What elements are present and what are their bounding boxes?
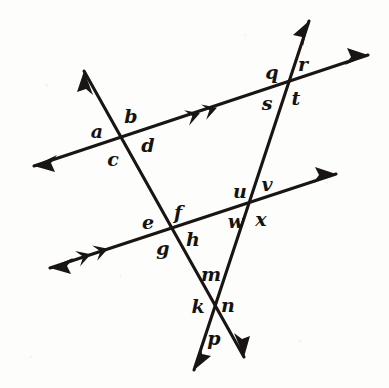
angle-label-e: e — [142, 213, 154, 232]
angle-label-c: c — [107, 150, 119, 169]
angle-label-g: g — [156, 239, 169, 258]
arrowhead-upper-parallel-right — [345, 48, 368, 65]
arrowheads-group — [34, 21, 368, 370]
angle-label-d: d — [141, 136, 154, 155]
angle-label-a: a — [91, 122, 103, 141]
angle-label-n: n — [221, 296, 235, 315]
angle-label-s: s — [262, 94, 273, 113]
geometry-diagram: a b c d q r s t e f g h u v w x m k n p — [0, 0, 389, 388]
lower-parallel-line — [50, 174, 336, 268]
angle-label-r: r — [298, 55, 308, 74]
angle-label-v: v — [261, 175, 272, 194]
arrowhead-lower-parallel-right — [313, 167, 336, 183]
angle-label-p: p — [207, 329, 220, 348]
right-transversal-line — [194, 21, 309, 370]
angle-label-h: h — [186, 230, 200, 249]
angle-label-f: f — [174, 203, 182, 222]
left-transversal-line — [84, 71, 244, 357]
angle-label-m: m — [201, 265, 221, 284]
angle-label-q: q — [265, 63, 278, 82]
angle-label-t: t — [292, 89, 301, 108]
angle-label-k: k — [191, 297, 204, 316]
angle-label-w: w — [228, 212, 244, 231]
angle-label-u: u — [233, 182, 247, 201]
parallel-mark-upper — [184, 100, 219, 125]
angle-label-x: x — [255, 210, 266, 229]
angle-label-b: b — [124, 107, 137, 126]
figure-canvas — [0, 0, 389, 388]
